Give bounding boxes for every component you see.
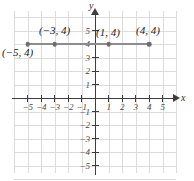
y-tick-label: −4 [79, 148, 90, 157]
x-axis-arrowhead-icon [173, 94, 180, 102]
data-line-segment [28, 43, 150, 45]
x-tick-label: 2 [120, 103, 125, 112]
y-tick-label: −1 [79, 107, 90, 116]
gridline-vertical [176, 11, 177, 173]
point-label-1-4: (1, 4) [96, 27, 120, 38]
y-tick-label: −5 [79, 161, 90, 170]
data-point [106, 42, 111, 47]
point-label-minus3-4: (−3, 4) [39, 25, 70, 36]
x-tick-label: 4 [147, 103, 152, 112]
data-point [147, 42, 152, 47]
x-tick-label: 5 [160, 103, 165, 112]
x-tick-label: −2 [63, 103, 74, 112]
y-tick-label: 3 [86, 53, 91, 62]
gridline-vertical [14, 11, 15, 173]
y-tick-label: −3 [79, 134, 90, 143]
x-tick-label: −5 [22, 103, 33, 112]
data-point [52, 42, 57, 47]
x-tick-label: 3 [133, 103, 138, 112]
gridline-vertical [28, 11, 29, 173]
x-axis-line [12, 98, 175, 99]
point-label-4-4: (4, 4) [136, 25, 160, 36]
y-tick-label: 2 [86, 67, 91, 76]
gridline-vertical [163, 11, 164, 173]
y-axis-label: y [89, 0, 93, 11]
gridline-vertical [122, 11, 123, 173]
x-tick-label: −3 [49, 103, 60, 112]
x-tick-label: −4 [36, 103, 47, 112]
y-tick-label: 1 [86, 80, 91, 89]
y-tick-label: −2 [79, 121, 90, 130]
x-axis-label: x [181, 92, 185, 103]
point-label-minus5-4: (−5, 4) [2, 47, 33, 58]
x-tick-label: 1 [106, 103, 111, 112]
coordinate-plane-figure: −5−4−3−2−11234554321−1−2−3−4−5 x y (−5, … [0, 0, 194, 181]
gridline-horizontal [14, 179, 176, 180]
y-tick-label: 5 [86, 26, 91, 35]
